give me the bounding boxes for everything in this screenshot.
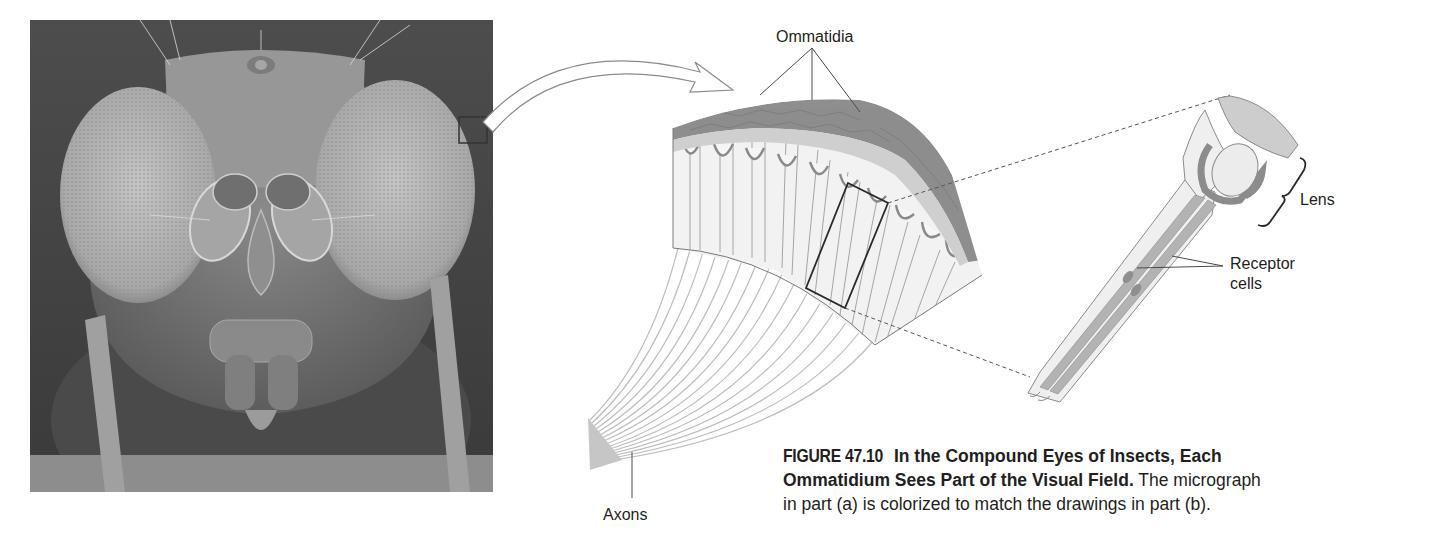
label-axons: Axons [603,505,647,524]
projection-line-bottom [845,308,1030,377]
caption-title-part-2: Ommatidium Sees Part of the Visual Field… [783,470,1134,490]
receptor-leader-lines [1137,256,1223,268]
label-lens: Lens [1300,190,1335,209]
micrograph-illustration [30,20,493,492]
selected-ommatidium-box [806,183,888,308]
ommatidium-detail [1028,96,1298,402]
figure-caption: FIGURE 47.10 In the Compound Eyes of Ins… [783,444,1453,516]
caption-body-part-2: in part (a) is colorized to match the dr… [783,494,1211,514]
label-ommatidia: Ommatidia [776,27,853,46]
lens-brace [1258,158,1305,226]
caption-body-part-1: The micrograph [1134,470,1261,490]
label-receptor-cells-line1: Receptor [1230,254,1295,273]
axon-bundle-end [588,418,622,470]
fly-head-micrograph [30,20,493,492]
caption-line-1: FIGURE 47.10 In the Compound Eyes of Ins… [783,444,1453,468]
ommatidia-fan [660,90,1000,360]
caption-title-part-1: In the Compound Eyes of Insects, Each [894,446,1222,466]
fan-outline [673,128,982,345]
projection-line-top [888,95,1230,203]
ommatidia-leader-lines [760,48,860,112]
label-receptor-cells-line2: cells [1230,274,1262,293]
figure-number: FIGURE 47.10 [783,444,883,468]
curved-arrow-icon [483,61,733,132]
axon-bundle [590,248,874,459]
caption-line-2: Ommatidium Sees Part of the Visual Field… [783,468,1453,492]
caption-line-3: in part (a) is colorized to match the dr… [783,492,1453,516]
